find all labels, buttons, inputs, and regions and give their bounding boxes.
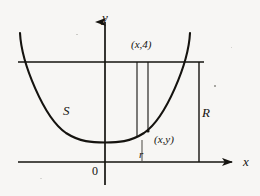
scan-speck — [40, 178, 42, 179]
point-label-x4: (x,4) — [131, 39, 151, 50]
origin-label: 0 — [92, 165, 98, 177]
x-axis-label: x — [243, 155, 249, 168]
point-label-xy: (x,y) — [154, 134, 174, 145]
radius-label-r-big: R — [202, 106, 210, 119]
scan-speck — [214, 85, 216, 87]
scan-speck — [231, 47, 232, 48]
region-label-s: S — [63, 104, 70, 117]
radius-label-r-small: r — [139, 149, 143, 160]
figure-canvas: y x 0 S R r (x,4) (x,y) — [0, 0, 260, 196]
y-axis-label: y — [102, 11, 108, 24]
diagram-svg — [0, 0, 260, 196]
scan-speck — [76, 34, 78, 35]
point-marker-xy — [146, 129, 149, 132]
